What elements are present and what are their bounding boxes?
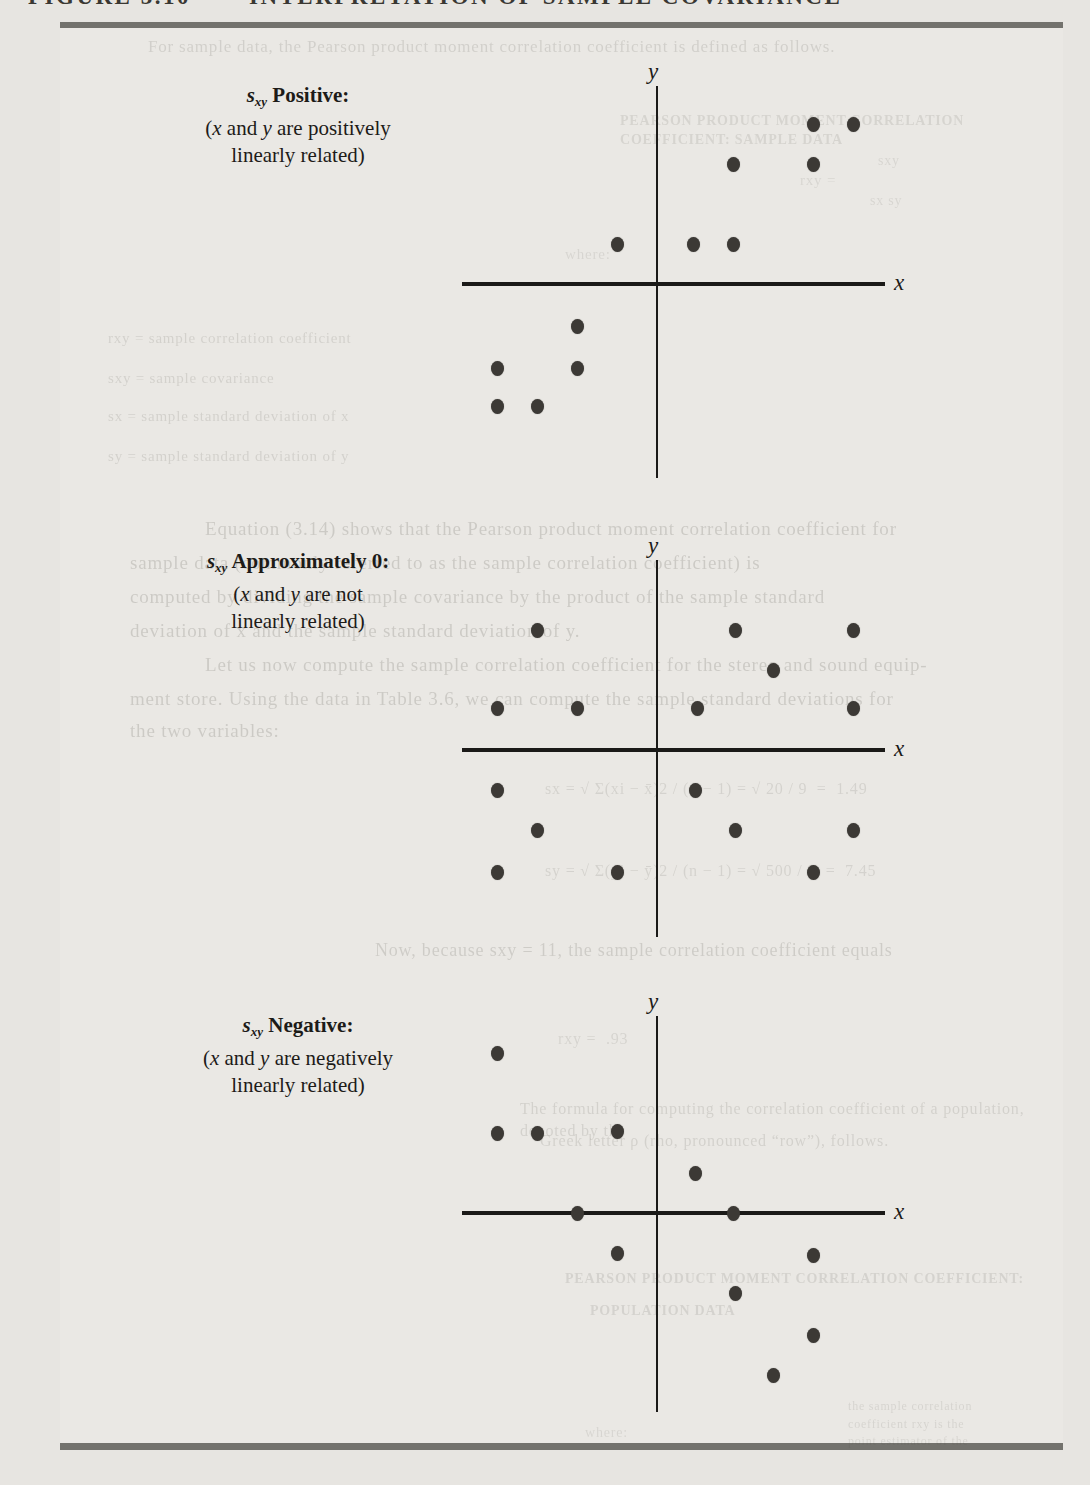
- plot-label-negative-line2: (x and y are negatively: [118, 1045, 478, 1072]
- plot-label-positive: sxy Positive: (x and y are positively li…: [118, 82, 478, 169]
- ghost-text: ment store. Using the data in Table 3.6,…: [130, 686, 1065, 712]
- ghost-text: For sample data, the Pearson product mom…: [148, 36, 1078, 59]
- scatter-point: [847, 117, 860, 132]
- ghost-text: rxy =: [800, 170, 836, 190]
- scatter-point: [729, 623, 742, 638]
- covariance-sign-word: Approximately 0:: [231, 549, 389, 573]
- scatter-point: [491, 399, 504, 414]
- scatter-point: [491, 1046, 504, 1061]
- scatter-point: [729, 823, 742, 838]
- x-axis-line: [462, 282, 885, 286]
- plot-label-negative-line3: linearly related): [118, 1072, 478, 1099]
- scatter-point: [807, 157, 820, 172]
- scatter-point: [847, 701, 860, 716]
- ghost-text: rxy = sample correlation coefficient: [108, 328, 458, 348]
- ghost-text: sxy = sample covariance: [108, 368, 458, 388]
- y-axis-label: y: [648, 60, 658, 83]
- page-header: FIGURE 3.10INTERPRETATION OF SAMPLE COVA…: [28, 0, 1078, 9]
- sxy-subscript: xy: [215, 560, 227, 575]
- scatter-point: [491, 865, 504, 880]
- ghost-text: Now, because sxy = 11, the sample correl…: [375, 938, 1065, 962]
- scatter-point: [691, 701, 704, 716]
- scatter-point: [491, 1126, 504, 1141]
- scatter-point: [847, 823, 860, 838]
- scatter-point: [727, 157, 740, 172]
- page-header-text: FIGURE 3.10INTERPRETATION OF SAMPLE COVA…: [28, 0, 842, 9]
- covariance-sign-word: Negative:: [268, 1013, 353, 1037]
- plot-label-approx-zero-line3: linearly related): [118, 608, 478, 635]
- scatter-point: [807, 1248, 820, 1263]
- sxy-subscript: xy: [251, 1024, 263, 1039]
- scatter-point: [807, 1328, 820, 1343]
- scatter-point: [611, 237, 624, 252]
- ghost-text: rxy = .93: [558, 1028, 628, 1050]
- ghost-text: the two variables:: [130, 718, 279, 744]
- scatter-point: [687, 237, 700, 252]
- scatter-point: [807, 117, 820, 132]
- plot-label-positive-line3: linearly related): [118, 142, 478, 169]
- scatter-point: [571, 361, 584, 376]
- scatter-point: [571, 319, 584, 334]
- plot-label-positive-title: sxy Positive:: [118, 82, 478, 115]
- scatter-point: [491, 361, 504, 376]
- plot-label-negative: sxy Negative: (x and y are negatively li…: [118, 1012, 478, 1099]
- figure-title: INTERPRETATION OF SAMPLE COVARIANCE: [249, 0, 842, 9]
- scatter-point: [689, 1166, 702, 1181]
- scatter-point: [531, 623, 544, 638]
- plot-label-negative-title: sxy Negative:: [118, 1012, 478, 1045]
- ghost-text: sx = √ Σ(xi − x̄)2 / (n − 1) = √ 20 / 9 …: [545, 778, 1065, 800]
- x-axis-label: x: [894, 1200, 904, 1223]
- scanned-textbook-page: { "page": { "header_left": "FIGURE 3.10"…: [0, 0, 1090, 1485]
- covariance-sign-word: Positive:: [272, 83, 349, 107]
- scatter-point: [611, 1246, 624, 1261]
- ghost-text: sxy: [878, 152, 900, 171]
- x-axis-label: x: [894, 271, 904, 294]
- scatter-point: [847, 623, 860, 638]
- sxy-symbol: s: [207, 549, 215, 573]
- figure-top-rule: [60, 22, 1063, 28]
- scatter-point: [611, 865, 624, 880]
- scatter-point: [571, 1206, 584, 1221]
- ghost-text: Equation (3.14) shows that the Pearson p…: [205, 516, 1060, 542]
- ghost-text: POPULATION DATA: [590, 1302, 735, 1321]
- plot-label-approx-zero-title: sxy Approximately 0:: [118, 548, 478, 581]
- ghost-text: point estimator of the: [848, 1433, 1008, 1449]
- y-axis-line: [656, 560, 659, 937]
- scatter-point: [491, 783, 504, 798]
- scatter-point: [767, 1368, 780, 1383]
- ghost-text: where:: [565, 244, 611, 264]
- scatter-point: [729, 1286, 742, 1301]
- sxy-subscript: xy: [255, 94, 267, 109]
- scatter-point: [491, 701, 504, 716]
- plot-label-positive-line2: (x and y are positively: [118, 115, 478, 142]
- scatter-point: [571, 701, 584, 716]
- x-axis-label: x: [894, 737, 904, 760]
- ghost-text: sx = sample standard deviation of x: [108, 406, 458, 426]
- y-axis-label: y: [648, 534, 658, 557]
- ghost-text: sy = sample standard deviation of y: [108, 446, 458, 466]
- scatter-point: [807, 865, 820, 880]
- ghost-text: PEARSON PRODUCT MOMENT CORRELATION COEFF…: [565, 1270, 1045, 1289]
- ghost-text: sx sy: [870, 192, 902, 211]
- y-axis-label: y: [648, 990, 658, 1013]
- x-axis-line: [462, 1211, 885, 1215]
- scatter-point: [727, 237, 740, 252]
- ghost-text: where:: [585, 1424, 628, 1443]
- scatter-point: [531, 1126, 544, 1141]
- y-axis-line: [656, 1016, 659, 1412]
- ghost-text: the sample correlation: [848, 1398, 1008, 1414]
- scatter-point: [689, 783, 702, 798]
- plot-label-approx-zero-line2: (x and y are not: [118, 581, 478, 608]
- sxy-symbol: s: [247, 83, 255, 107]
- ghost-text: coefficient rxy is the: [848, 1416, 1008, 1432]
- sxy-symbol: s: [243, 1013, 251, 1037]
- plot-label-approx-zero: sxy Approximately 0: (x and y are not li…: [118, 548, 478, 635]
- figure-number: FIGURE 3.10: [28, 0, 191, 9]
- x-axis-line: [462, 748, 885, 752]
- ghost-text: Let us now compute the sample correlatio…: [205, 652, 1060, 678]
- scatter-point: [727, 1206, 740, 1221]
- scatter-point: [531, 399, 544, 414]
- scatter-point: [767, 663, 780, 678]
- scatter-point: [611, 1124, 624, 1139]
- y-axis-line: [656, 86, 659, 478]
